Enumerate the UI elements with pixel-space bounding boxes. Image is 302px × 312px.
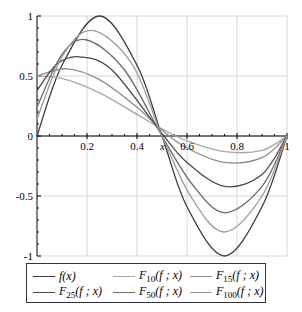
legend-label: f(x) <box>59 269 76 284</box>
legend-label: F50(f ; x) <box>139 284 182 300</box>
y-tick-label: 0.5 <box>19 70 33 82</box>
legend-label: F25(f ; x) <box>59 284 102 300</box>
legend-swatch <box>33 276 55 277</box>
legend-swatch <box>190 276 212 277</box>
legend: f(x) F10(f ; x) F15(f ; x) F25(f ; x) F5… <box>26 263 266 303</box>
legend-item-f50: F50(f ; x) <box>113 285 182 299</box>
legend-swatch <box>113 292 135 293</box>
y-tick-label: 1 <box>28 10 34 22</box>
legend-swatch <box>113 276 135 277</box>
x-tick-label: 0.6 <box>180 140 194 152</box>
y-tick-label: -0.5 <box>16 190 34 202</box>
legend-label: F15(f ; x) <box>216 268 259 284</box>
x-tick-label: 1 <box>284 140 290 152</box>
x-tick-label: 0.2 <box>80 140 94 152</box>
y-tick-label: 0 <box>28 130 34 142</box>
legend-item-f10: F10(f ; x) <box>113 269 182 283</box>
legend-label: F10(f ; x) <box>139 268 182 284</box>
legend-item-f15: F15(f ; x) <box>190 269 259 283</box>
legend-item-f25: F25(f ; x) <box>33 285 102 299</box>
legend-label: F100(f ; x) <box>216 284 264 300</box>
legend-item-f100: F100(f ; x) <box>190 285 264 299</box>
series-line-5 <box>37 30 287 232</box>
x-tick-label: 0.4 <box>130 140 144 152</box>
x-tick-label: 0.8 <box>230 140 244 152</box>
legend-swatch <box>190 292 212 293</box>
series-line-4 <box>37 39 287 212</box>
legend-swatch <box>33 292 55 293</box>
legend-item-f: f(x) <box>33 269 76 283</box>
y-tick-label: -1 <box>24 250 33 262</box>
x-axis-label: x <box>159 140 165 152</box>
